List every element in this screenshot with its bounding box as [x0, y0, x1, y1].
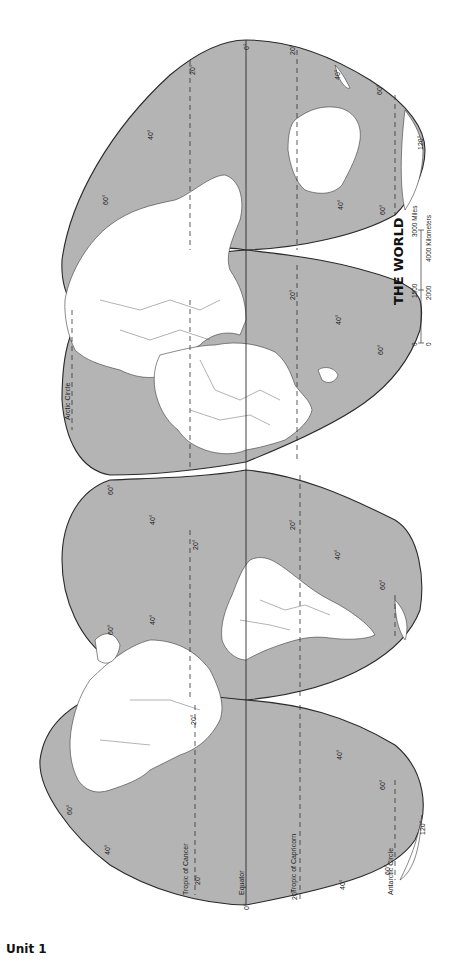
label-60deg: 60° [107, 624, 114, 635]
scale-miles-1500: 1500 [411, 283, 418, 298]
label-60deg: 60° [384, 864, 391, 875]
label-60deg: 60° [66, 804, 73, 815]
scale-km-2000: 2000 [425, 285, 432, 300]
label-arctic-circle: Arctic Circle [64, 383, 71, 420]
scale-km-0: 0 [425, 342, 432, 346]
label-equator: Equator [238, 870, 246, 895]
label-0deg: 0° [243, 903, 250, 910]
label-40deg: 40° [149, 614, 156, 625]
label-60deg: 60° [377, 344, 384, 355]
label-20deg: 20° [190, 714, 197, 725]
label-20deg: 20° [289, 289, 296, 300]
label-20deg: 20° [291, 889, 298, 900]
unit-label: Unit 1 [6, 942, 47, 956]
label-40deg: 40° [337, 199, 344, 210]
label-120deg: 120° [419, 820, 426, 835]
label-tropic-cancer: Tropic of Cancer [182, 843, 190, 895]
label-40deg: 40° [147, 129, 154, 140]
label-20deg: 20° [289, 519, 296, 530]
landmass-antarctica-1 [401, 110, 423, 210]
label-120deg: 120° [417, 135, 424, 150]
label-20deg: 20° [189, 64, 196, 75]
scale-miles-3000: 3000 Miles [411, 205, 418, 237]
label-40deg: 40° [149, 514, 156, 525]
label-40deg: 40° [336, 749, 343, 760]
label-40deg: 40° [334, 549, 341, 560]
label-40deg: 40° [334, 69, 341, 80]
label-40deg: 40° [104, 844, 111, 855]
scale-km-4000: 4000 Kilometers [425, 214, 432, 262]
label-tropic-capricorn: Tropic of Capricorn [290, 834, 298, 893]
label-40deg: 40° [339, 879, 346, 890]
label-20deg: 20° [289, 44, 296, 55]
label-60deg: 60° [379, 779, 386, 790]
label-60deg: 60° [107, 484, 114, 495]
label-20deg: 20° [194, 874, 201, 885]
map-title: THE WORLD [391, 217, 406, 305]
label-60deg: 60° [379, 204, 386, 215]
label-60deg: 60° [102, 194, 109, 205]
label-0deg: 0° [243, 43, 250, 50]
scale-miles-0: 0 [411, 342, 418, 346]
world-map: Equator Tropic of Cancer Tropic of Capri… [0, 0, 459, 961]
label-20deg: 20° [192, 539, 199, 550]
label-40deg: 40° [335, 314, 342, 325]
label-60deg: 60° [379, 579, 386, 590]
label-60deg: 60° [376, 84, 383, 95]
